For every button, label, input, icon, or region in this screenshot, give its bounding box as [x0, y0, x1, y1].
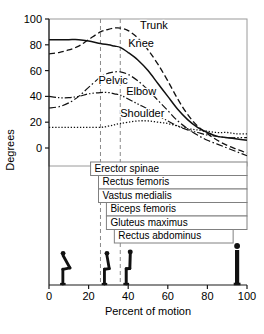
sit-to-stand-chart: TrunkTrunkKneeKneePelvicPelvicElbowElbow…	[0, 0, 264, 334]
figure-trunk	[63, 255, 70, 267]
reference-lines-group	[100, 19, 120, 285]
chart-figure: TrunkTrunkKneeKneePelvicPelvicElbowElbow…	[0, 0, 264, 334]
activity-bar-label: Gluteus maximus	[110, 217, 187, 228]
y-axis-tick-label: 80	[30, 39, 42, 51]
figure-head	[128, 249, 133, 254]
activity-bar-label: Erector spinae	[95, 163, 160, 174]
figure-head	[61, 251, 66, 256]
y-axis-tick-label: 20	[30, 116, 42, 128]
y-axis-tick-label: 0	[36, 142, 42, 154]
curve-label-pelvic: Pelvic	[99, 74, 129, 86]
activity-bar-label: Rectus abdominus	[118, 230, 201, 241]
figure-trunk	[107, 255, 109, 268]
figure-head	[105, 251, 110, 256]
y-axis-tick-label: 60	[30, 65, 42, 77]
curve-shoulder	[49, 121, 247, 134]
x-axis-tick-label: 60	[162, 290, 174, 302]
activity-bar-label: Rectus femoris	[103, 176, 170, 187]
x-axis-tick-label: 20	[82, 290, 94, 302]
x-axis-tick-label: 80	[201, 290, 213, 302]
posture-figure	[102, 251, 110, 284]
curve-label-trunk: Trunk	[140, 19, 168, 31]
posture-figure	[60, 251, 70, 284]
curve-label-elbow: Elbow	[126, 85, 156, 97]
x-axis-tick-label: 0	[46, 290, 52, 302]
y-axis-title: Degrees	[4, 129, 16, 171]
figure-head	[234, 243, 240, 249]
y-axis-tick-label: 40	[30, 90, 42, 102]
activity-bar-label: Vastus medialis	[103, 190, 172, 201]
y-axis-tick-label: 100	[24, 13, 42, 25]
x-axis-tick-label: 100	[238, 290, 256, 302]
x-axis-tick-label: 40	[122, 290, 134, 302]
posture-figures-group	[60, 243, 240, 284]
posture-figure	[123, 249, 132, 284]
x-axis-title: Percent of motion	[105, 305, 191, 317]
curve-label-knee: Knee	[128, 37, 154, 49]
activity-bars-group: Erector spinaeRectus femorisVastus media…	[91, 162, 247, 243]
posture-figure	[234, 243, 241, 284]
activity-bar-label: Biceps femoris	[110, 203, 176, 214]
curve-label-shoulder: Shoulder	[120, 107, 164, 119]
